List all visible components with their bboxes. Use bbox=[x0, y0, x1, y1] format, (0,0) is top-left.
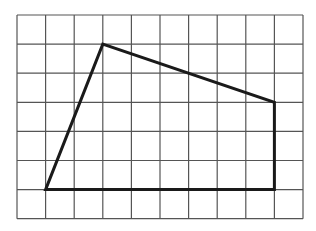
grid-diagram bbox=[0, 0, 316, 231]
